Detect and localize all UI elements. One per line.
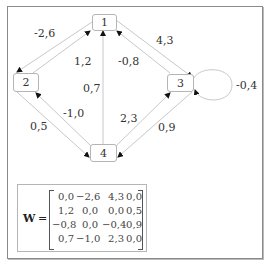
matrix-cell: 0,5	[120, 205, 142, 216]
matrix-row: 0,7 −1,0 2,3 0,0	[52, 233, 140, 247]
edge-label-1-3: 4,3	[156, 35, 174, 46]
matrix-cell: −1,0	[76, 233, 98, 244]
node-2: 2	[13, 73, 39, 92]
matrix-cell: −0,8	[52, 219, 74, 230]
matrix-cell: 0,0	[120, 233, 142, 244]
node-3: 3	[167, 74, 194, 92]
edge-label-4-1: 0,7	[83, 83, 101, 94]
matrix-cell: 0,0	[120, 191, 142, 202]
matrix-row: −0,8 0,0 −0,4 0,9	[52, 219, 140, 233]
edge-label-4-3: 2,3	[120, 113, 138, 124]
node-1: 1	[92, 14, 117, 31]
matrix-row: 1,2 0,0 0,0 0,5	[52, 205, 140, 219]
edge-1-3	[116, 20, 192, 77]
node-label: 3	[177, 77, 184, 90]
matrix-cell: 0,0	[76, 219, 98, 230]
weight-matrix: W = 0,0 −2,6 4,3 0,0 1,2 0,0 0,0 0,5 −0,…	[17, 184, 147, 252]
edge-label-1-2: -2,6	[34, 28, 55, 39]
edge-label-3-1: -0,8	[118, 56, 139, 67]
edge-label-4-2: -1,0	[63, 108, 84, 119]
matrix-symbol: W	[23, 212, 35, 225]
matrix-cell: 1,2	[52, 205, 74, 216]
node-label: 2	[23, 76, 30, 89]
node-4: 4	[90, 144, 117, 162]
node-label: 1	[101, 16, 108, 29]
matrix-row: 0,0 −2,6 4,3 0,0	[52, 191, 140, 205]
edge-label-3-4: 0,9	[158, 122, 176, 133]
node-label: 4	[100, 147, 107, 160]
matrix-cell: 0,9	[120, 219, 142, 230]
edge-3-3	[194, 70, 232, 100]
edge-label-2-1: 1,2	[74, 56, 92, 67]
edge-2-4	[17, 92, 89, 157]
matrix-cell: 0,0	[52, 191, 74, 202]
equals-sign: =	[38, 212, 47, 225]
matrix-cell: 0,7	[52, 233, 74, 244]
edge-label-3-3: -0,4	[236, 80, 257, 91]
edge-label-2-4: 0,5	[30, 121, 48, 132]
matrix-cell: −2,6	[76, 191, 98, 202]
matrix-cell: 0,0	[76, 205, 98, 216]
